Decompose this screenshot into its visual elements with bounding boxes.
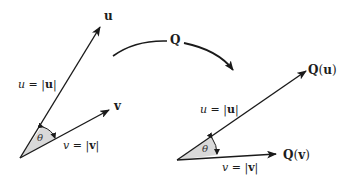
transform-arc-part1 [113, 41, 167, 56]
label-v: v [114, 100, 121, 112]
equals: = [69, 139, 85, 152]
label-length-v-right: v = |v| [222, 162, 258, 173]
angle-theta-left: θ [37, 133, 43, 143]
qv-fn: Q [283, 148, 293, 162]
label-u: u [104, 10, 113, 22]
label-qu: Q(u) [308, 64, 337, 76]
label-q: Q [170, 34, 180, 46]
length-v-abs: v [248, 161, 254, 174]
label-length-u-left: u = |u| [18, 79, 57, 90]
equals: = [228, 161, 244, 174]
qu-fn: Q [308, 63, 318, 77]
transform-arc-part2 [184, 43, 233, 70]
label-qv: Q(v) [283, 149, 310, 161]
label-length-u-right: u = |u| [200, 104, 239, 115]
vector-qu-arrow [177, 71, 306, 160]
equals: = [25, 78, 41, 91]
length-u-abs: u [45, 78, 53, 91]
qu-arg: u [323, 63, 332, 77]
label-length-v-left: v = |v| [63, 140, 99, 151]
length-u-abs: u [227, 103, 235, 116]
right-figure [177, 71, 306, 160]
angle-theta-right: θ [202, 144, 208, 154]
equals: = [207, 103, 223, 116]
length-v-abs: v [89, 139, 95, 152]
